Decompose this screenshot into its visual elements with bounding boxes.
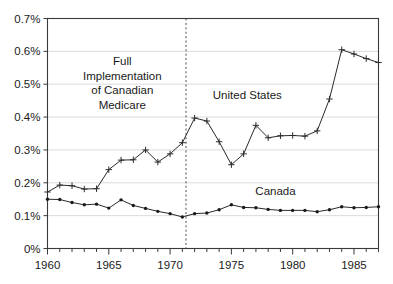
data-point-marker [205,211,208,214]
x-tick-label: 1965 [96,259,122,271]
annotation-line: of Canadian [91,84,153,96]
data-point-marker [316,210,319,213]
data-point-marker [365,206,368,209]
data-point-marker [352,206,355,209]
data-point-marker [328,208,331,211]
data-point-marker [266,208,269,211]
data-point-marker [119,198,122,201]
y-tick-label: 0.3% [14,144,40,156]
data-point-marker [46,198,49,201]
data-point-marker [58,198,61,201]
data-point-marker [242,206,245,209]
data-point-marker [144,207,147,210]
data-point-marker [193,212,196,215]
line-chart: 0%0.1%0.2%0.3%0.4%0.5%0.6%0.7% 196019651… [0,0,393,284]
plot-background [48,19,379,249]
y-tick-label: 0.7% [14,13,40,25]
data-point-marker [254,206,257,209]
y-axis-ticks: 0%0.1%0.2%0.3%0.4%0.5%0.6%0.7% [14,13,47,255]
data-point-marker [230,203,233,206]
chart-container: 0%0.1%0.2%0.3%0.4%0.5%0.6%0.7% 196019651… [0,0,393,284]
data-point-marker [83,203,86,206]
data-point-marker [132,204,135,207]
y-tick-label: 0.6% [14,45,40,57]
x-tick-label: 1980 [280,259,306,271]
annotation-line: Medicare [99,99,146,111]
data-point-marker [107,206,110,209]
x-tick-label: 1970 [157,259,183,271]
data-point-marker [303,209,306,212]
y-tick-label: 0% [24,243,41,255]
data-point-marker [291,209,294,212]
y-tick-label: 0.5% [14,78,40,90]
annotation-line: Full [113,55,132,67]
data-point-marker [340,205,343,208]
x-tick-label: 1975 [219,259,245,271]
x-axis-ticks: 196019651970197519801985 [35,249,379,271]
data-point-marker [377,205,380,208]
x-tick-label: 1985 [341,259,367,271]
data-point-marker [95,202,98,205]
data-point-marker [279,209,282,212]
data-point-marker [168,212,171,215]
annotation-line: Implementation [83,70,162,82]
x-tick-label: 1960 [35,259,61,271]
y-tick-label: 0.2% [14,177,40,189]
data-point-marker [156,210,159,213]
series-label-canada: Canada [255,185,296,197]
data-point-marker [70,201,73,204]
y-tick-label: 0.4% [14,111,40,123]
data-point-marker [217,208,220,211]
data-point-marker [181,215,184,218]
series-label-united-states: United States [213,89,282,101]
y-tick-label: 0.1% [14,210,40,222]
